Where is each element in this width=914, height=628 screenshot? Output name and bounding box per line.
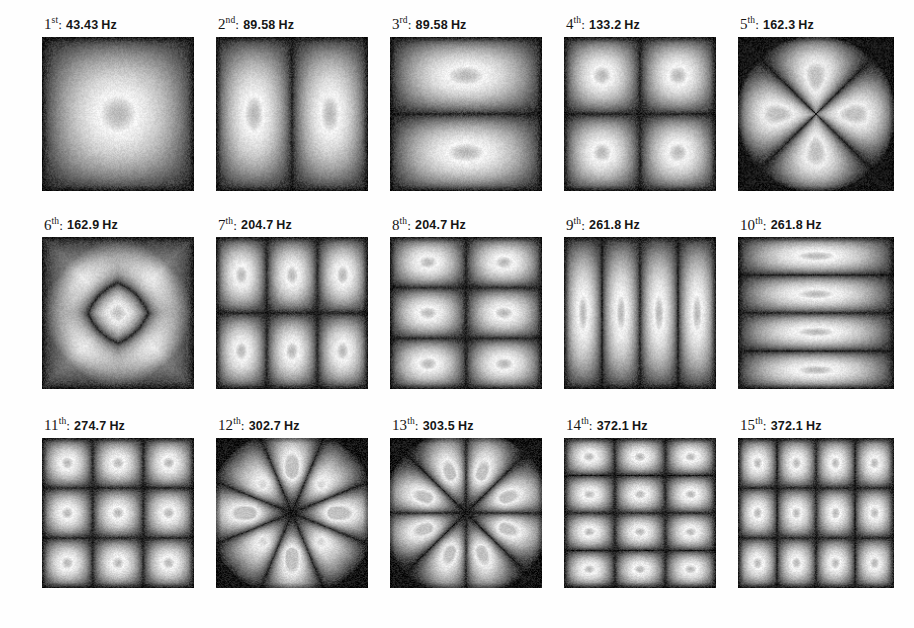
mode-plate-wrap-15 bbox=[738, 438, 894, 588]
mode-label-separator: : bbox=[235, 17, 239, 32]
mode-label-13: 13th:303.5Hz bbox=[390, 417, 474, 433]
mode-ordinal-suffix: th bbox=[755, 216, 763, 226]
mode-plate-wrap-10 bbox=[738, 237, 894, 389]
mode-frequency-value: 204.7 bbox=[241, 218, 273, 232]
mode-shape-image-2 bbox=[216, 37, 368, 191]
mode-shape-canvas bbox=[216, 237, 368, 389]
mode-ordinal-number: 12 bbox=[218, 417, 233, 433]
mode-shape-canvas bbox=[42, 438, 194, 588]
mode-ordinal-suffix: th bbox=[581, 416, 589, 426]
mode-label-5: 5th:162.3Hz bbox=[738, 16, 814, 32]
mode-ordinal-number: 8 bbox=[392, 216, 400, 232]
mode-ordinal-number: 13 bbox=[392, 417, 407, 433]
mode-panel-2: 2nd:89.58Hz bbox=[216, 16, 372, 211]
mode-frequency-unit: Hz bbox=[624, 18, 640, 32]
mode-shape-image-8 bbox=[390, 237, 542, 389]
mode-panel-14: 14th:372.1Hz bbox=[564, 417, 720, 612]
mode-plate-wrap-13 bbox=[390, 438, 542, 588]
mode-label-4: 4th:133.2Hz bbox=[564, 16, 640, 32]
mode-shape-canvas bbox=[738, 438, 894, 588]
mode-label-separator: : bbox=[763, 418, 767, 433]
mode-shape-image-12 bbox=[216, 438, 368, 588]
mode-shape-canvas bbox=[564, 438, 716, 588]
mode-label-separator: : bbox=[415, 418, 419, 433]
mode-plate-wrap-14 bbox=[564, 438, 716, 588]
mode-shape-canvas bbox=[738, 37, 894, 191]
mode-panel-15: 15th:372.1Hz bbox=[738, 417, 894, 612]
mode-panel-3: 3rd:89.58Hz bbox=[390, 16, 546, 211]
mode-label-separator: : bbox=[241, 418, 245, 433]
mode-ordinal-suffix: nd bbox=[226, 15, 236, 25]
mode-plate-wrap-11 bbox=[42, 438, 194, 588]
mode-ordinal-suffix: th bbox=[407, 416, 415, 426]
mode-label-separator: : bbox=[763, 217, 767, 232]
mode-shape-image-1 bbox=[42, 37, 194, 191]
mode-shape-canvas bbox=[564, 237, 716, 389]
mode-frequency-unit: Hz bbox=[806, 419, 822, 433]
mode-label-3: 3rd:89.58Hz bbox=[390, 16, 467, 32]
mode-label-separator: : bbox=[233, 217, 237, 232]
mode-frequency-value: 302.7 bbox=[249, 419, 281, 433]
mode-shape-canvas bbox=[216, 37, 368, 191]
mode-panel-7: 7th:204.7Hz bbox=[216, 217, 372, 412]
mode-shape-canvas bbox=[42, 237, 194, 389]
mode-frequency-value: 89.58 bbox=[416, 18, 448, 32]
mode-frequency-value: 261.8 bbox=[771, 218, 803, 232]
mode-panel-6: 6th:162.9Hz bbox=[42, 217, 198, 412]
mode-shape-image-3 bbox=[390, 37, 542, 191]
mode-panel-11: 11th:274.7Hz bbox=[42, 417, 198, 612]
mode-panel-10: 10th:261.8Hz bbox=[738, 217, 894, 412]
mode-panel-5: 5th:162.3Hz bbox=[738, 16, 894, 211]
mode-label-6: 6th:162.9Hz bbox=[42, 217, 118, 233]
mode-ordinal-number: 1 bbox=[44, 16, 52, 32]
mode-ordinal-number: 9 bbox=[566, 216, 574, 232]
mode-frequency-value: 372.1 bbox=[597, 419, 629, 433]
mode-label-separator: : bbox=[407, 217, 411, 232]
mode-label-14: 14th:372.1Hz bbox=[564, 417, 648, 433]
mode-label-11: 11th:274.7Hz bbox=[42, 417, 125, 433]
mode-label-separator: : bbox=[755, 17, 759, 32]
mode-shape-image-6 bbox=[42, 237, 194, 389]
mode-shape-image-10 bbox=[738, 237, 894, 389]
mode-panel-12: 12th:302.7Hz bbox=[216, 417, 372, 612]
mode-frequency-unit: Hz bbox=[276, 218, 292, 232]
mode-plate-wrap-2 bbox=[216, 37, 368, 191]
mode-plate-wrap-6 bbox=[42, 237, 194, 389]
mode-frequency-value: 303.5 bbox=[423, 419, 455, 433]
mode-label-2: 2nd:89.58Hz bbox=[216, 16, 294, 32]
mode-shape-canvas bbox=[390, 237, 542, 389]
mode-ordinal-number: 11 bbox=[44, 417, 59, 433]
mode-plate-wrap-9 bbox=[564, 237, 716, 389]
mode-shape-image-9 bbox=[564, 237, 716, 389]
mode-shape-image-11 bbox=[42, 438, 194, 588]
mode-frequency-value: 261.8 bbox=[589, 218, 621, 232]
mode-label-8: 8th:204.7Hz bbox=[390, 217, 466, 233]
mode-plate-wrap-7 bbox=[216, 237, 368, 389]
mode-plate-wrap-5 bbox=[738, 37, 894, 191]
mode-frequency-unit: Hz bbox=[109, 419, 125, 433]
mode-panel-1: 1st:43.43Hz bbox=[42, 16, 198, 211]
mode-label-separator: : bbox=[59, 217, 63, 232]
mode-label-separator: : bbox=[66, 418, 70, 433]
mode-ordinal-number: 5 bbox=[740, 16, 748, 32]
mode-shape-figure: 1st:43.43Hz2nd:89.58Hz3rd:89.58Hz4th:133… bbox=[0, 0, 914, 628]
mode-plate-wrap-4 bbox=[564, 37, 716, 191]
mode-label-separator: : bbox=[589, 418, 593, 433]
mode-label-15: 15th:372.1Hz bbox=[738, 417, 822, 433]
mode-shape-image-13 bbox=[390, 438, 542, 588]
mode-frequency-unit: Hz bbox=[451, 18, 467, 32]
mode-panel-grid: 1st:43.43Hz2nd:89.58Hz3rd:89.58Hz4th:133… bbox=[42, 16, 894, 612]
mode-ordinal-suffix: rd bbox=[400, 15, 408, 25]
mode-ordinal-number: 2 bbox=[218, 16, 226, 32]
mode-frequency-unit: Hz bbox=[102, 218, 118, 232]
mode-ordinal-number: 6 bbox=[44, 216, 52, 232]
mode-frequency-unit: Hz bbox=[632, 419, 648, 433]
mode-frequency-unit: Hz bbox=[806, 218, 822, 232]
mode-panel-13: 13th:303.5Hz bbox=[390, 417, 546, 612]
mode-frequency-unit: Hz bbox=[798, 18, 814, 32]
mode-frequency-unit: Hz bbox=[450, 218, 466, 232]
mode-ordinal-number: 15 bbox=[740, 417, 755, 433]
mode-shape-canvas bbox=[42, 37, 194, 191]
mode-shape-image-7 bbox=[216, 237, 368, 389]
mode-frequency-value: 133.2 bbox=[589, 18, 621, 32]
